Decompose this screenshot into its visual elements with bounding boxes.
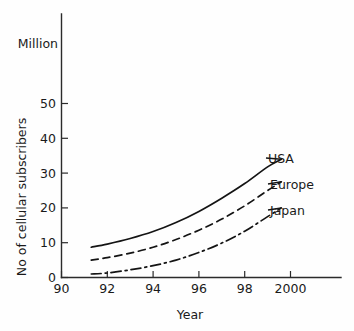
series-label-japan[interactable]: Japan — [269, 203, 305, 218]
x-tick-label-96: 96 — [191, 281, 207, 296]
cellular-subscribers-line-chart: 0 10 20 30 40 50 90 92 94 96 98 2000 Mil… — [0, 0, 354, 331]
chart-canvas: 0 10 20 30 40 50 90 92 94 96 98 2000 Mil… — [0, 0, 354, 331]
x-tick-label-94: 94 — [145, 281, 161, 296]
series-label-usa[interactable]: USA — [268, 151, 294, 166]
y-tick-label-30: 30 — [40, 166, 56, 181]
series-labels: USA Europe Japan — [268, 151, 314, 218]
chart-axes — [62, 14, 342, 278]
unit-label-million: Million — [18, 36, 58, 51]
y-tick-label-50: 50 — [40, 96, 56, 111]
y-axis-ticks — [62, 104, 69, 278]
series-line-europe — [91, 182, 281, 260]
x-axis-tick-labels: 90 92 94 96 98 2000 — [54, 281, 307, 296]
y-axis-tick-labels: 0 10 20 30 40 50 — [40, 96, 56, 285]
x-tick-label-90: 90 — [54, 281, 70, 296]
chart-series-group — [91, 159, 281, 274]
series-label-europe[interactable]: Europe — [270, 177, 314, 192]
x-tick-label-2000: 2000 — [275, 281, 307, 296]
x-tick-label-92: 92 — [99, 281, 115, 296]
series-line-usa — [91, 159, 281, 247]
y-tick-label-40: 40 — [40, 131, 56, 146]
x-axis-title: Year — [176, 307, 204, 322]
x-tick-label-98: 98 — [237, 281, 253, 296]
y-axis-title: No of cellular subscribers — [14, 118, 29, 276]
y-tick-label-10: 10 — [40, 235, 56, 250]
y-tick-label-20: 20 — [40, 200, 56, 215]
